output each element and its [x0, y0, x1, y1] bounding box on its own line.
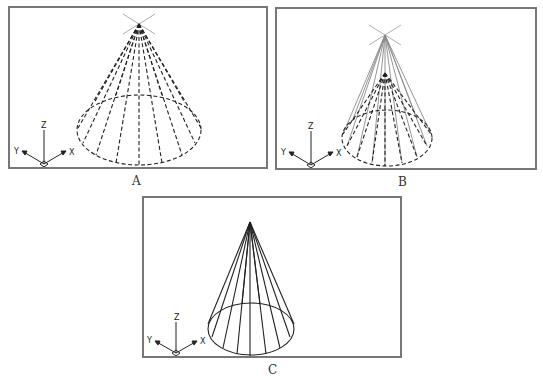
ucs-icon: [289, 131, 333, 168]
panel-c: Z Y X: [142, 196, 402, 358]
cone-dashed-drawing: Z Y X: [10, 8, 266, 167]
x-axis-label: X: [200, 337, 206, 346]
ucs-icon: [22, 130, 66, 167]
cone-generators: [77, 24, 201, 166]
ucs-icon: [155, 322, 197, 356]
cone-final-drawing: Z Y X: [144, 198, 400, 356]
y-axis-label: Y: [13, 147, 19, 156]
z-axis-label: Z: [308, 122, 314, 131]
x-axis-label: X: [336, 149, 342, 158]
y-axis-label: Y: [146, 336, 152, 345]
caption-b: B: [398, 175, 407, 189]
caption-c: C: [268, 363, 277, 377]
panel-a: Z Y X: [8, 6, 268, 169]
original-cone-dashed: [342, 73, 432, 166]
final-cone: [208, 222, 294, 356]
stretched-generators: [343, 35, 431, 166]
caption-a: A: [132, 174, 141, 188]
panel-b: Z Y X: [275, 7, 537, 170]
cone-stretch-drawing: Z Y X: [277, 9, 535, 168]
z-axis-label: Z: [41, 121, 47, 130]
z-axis-label: Z: [174, 313, 180, 322]
x-axis-label: X: [69, 148, 75, 157]
y-axis-label: Y: [280, 148, 286, 157]
